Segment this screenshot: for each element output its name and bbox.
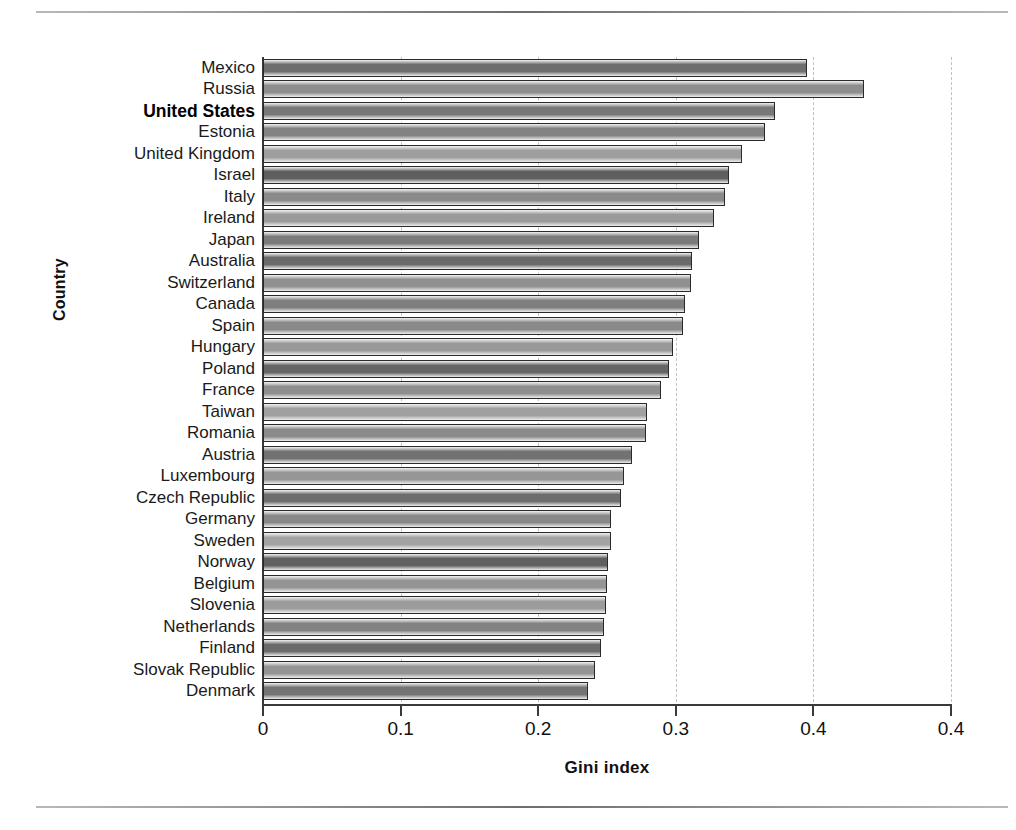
y-tick-label-hungary: Hungary	[5, 338, 255, 356]
bar-ireland[interactable]	[263, 209, 714, 227]
bar-romania[interactable]	[263, 424, 646, 442]
x-tick-mark-2	[537, 705, 539, 716]
y-tick-label-netherlands: Netherlands	[5, 618, 255, 636]
y-tick-label-slovenia: Slovenia	[5, 596, 255, 614]
y-tick-label-taiwan: Taiwan	[5, 403, 255, 421]
bar-israel[interactable]	[263, 166, 729, 184]
y-tick-label-romania: Romania	[5, 424, 255, 442]
bar-denmark[interactable]	[263, 682, 588, 700]
y-tick-label-italy: Italy	[5, 188, 255, 206]
bar-spain[interactable]	[263, 317, 683, 335]
y-tick-label-japan: Japan	[5, 231, 255, 249]
y-tick-label-sweden: Sweden	[5, 532, 255, 550]
y-tick-label-belgium: Belgium	[5, 575, 255, 593]
x-tick-label-4: 0.4	[778, 718, 848, 740]
x-tick-mark-4	[812, 705, 814, 716]
x-tick-label-0: 0	[228, 718, 298, 740]
y-tick-label-mexico: Mexico	[5, 59, 255, 77]
bar-norway[interactable]	[263, 553, 608, 571]
y-tick-label-france: France	[5, 381, 255, 399]
x-tick-label-1: 0.1	[366, 718, 436, 740]
bar-switzerland[interactable]	[263, 274, 691, 292]
y-tick-label-austria: Austria	[5, 446, 255, 464]
bar-poland[interactable]	[263, 360, 669, 378]
y-tick-label-germany: Germany	[5, 510, 255, 528]
x-tick-label-5: 0.4	[916, 718, 986, 740]
y-tick-label-israel: Israel	[5, 166, 255, 184]
y-tick-label-united-states: United States	[5, 102, 255, 120]
bar-slovak-republic[interactable]	[263, 661, 595, 679]
x-axis-spine	[262, 704, 952, 706]
bar-united-kingdom[interactable]	[263, 145, 742, 163]
bar-netherlands[interactable]	[263, 618, 604, 636]
bar-belgium[interactable]	[263, 575, 607, 593]
y-tick-label-estonia: Estonia	[5, 123, 255, 141]
x-tick-mark-1	[400, 705, 402, 716]
bar-slovenia[interactable]	[263, 596, 606, 614]
bar-austria[interactable]	[263, 446, 632, 464]
y-tick-label-norway: Norway	[5, 553, 255, 571]
y-tick-label-australia: Australia	[5, 252, 255, 270]
y-axis-tick-labels: MexicoRussiaUnited StatesEstoniaUnited K…	[5, 57, 255, 702]
y-tick-label-ireland: Ireland	[5, 209, 255, 227]
y-tick-label-spain: Spain	[5, 317, 255, 335]
y-tick-label-finland: Finland	[5, 639, 255, 657]
bar-hungary[interactable]	[263, 338, 673, 356]
x-tick-mark-3	[675, 705, 677, 716]
y-tick-label-slovak-republic: Slovak Republic	[5, 661, 255, 679]
bar-france[interactable]	[263, 381, 661, 399]
x-axis-title: Gini index	[263, 758, 951, 778]
x-tick-mark-5	[950, 705, 952, 716]
bar-luxembourg[interactable]	[263, 467, 624, 485]
y-tick-label-poland: Poland	[5, 360, 255, 378]
y-tick-label-canada: Canada	[5, 295, 255, 313]
y-tick-label-czech-republic: Czech Republic	[5, 489, 255, 507]
bar-estonia[interactable]	[263, 123, 765, 141]
bar-italy[interactable]	[263, 188, 725, 206]
bar-sweden[interactable]	[263, 532, 611, 550]
y-tick-label-denmark: Denmark	[5, 682, 255, 700]
plot-area	[263, 57, 951, 702]
bar-canada[interactable]	[263, 295, 685, 313]
bar-australia[interactable]	[263, 252, 692, 270]
x-tick-label-3: 0.3	[641, 718, 711, 740]
bar-united-states[interactable]	[263, 102, 775, 120]
x-tick-label-2: 0.2	[503, 718, 573, 740]
gridline-0.4	[951, 57, 952, 702]
y-tick-label-united-kingdom: United Kingdom	[5, 145, 255, 163]
bar-japan[interactable]	[263, 231, 699, 249]
y-tick-label-luxembourg: Luxembourg	[5, 467, 255, 485]
bar-finland[interactable]	[263, 639, 601, 657]
bar-taiwan[interactable]	[263, 403, 647, 421]
y-tick-label-switzerland: Switzerland	[5, 274, 255, 292]
x-tick-mark-0	[262, 705, 264, 716]
bar-germany[interactable]	[263, 510, 611, 528]
bar-czech-republic[interactable]	[263, 489, 621, 507]
y-tick-label-russia: Russia	[5, 80, 255, 98]
gridline-0.4	[813, 57, 814, 702]
bar-mexico[interactable]	[263, 59, 807, 77]
bar-russia[interactable]	[263, 80, 864, 98]
gini-index-bar-chart: Country MexicoRussiaUnited StatesEstonia…	[0, 0, 1016, 830]
